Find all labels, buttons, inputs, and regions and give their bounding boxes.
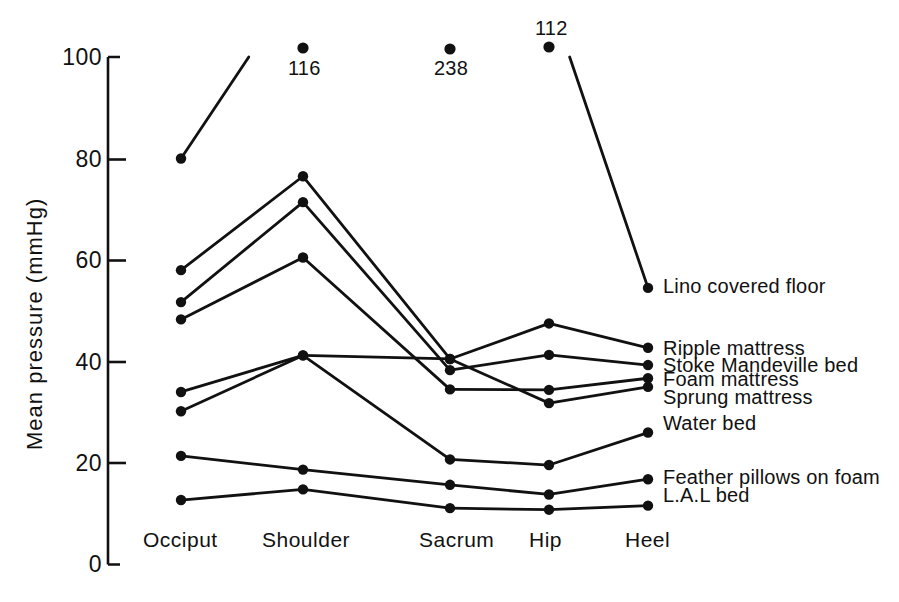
x-tick-label-heel: Heel bbox=[625, 528, 670, 552]
series-line-segment bbox=[450, 389, 549, 390]
y-axis-title: Mean pressure (mmHg) bbox=[22, 198, 48, 450]
series-line-segment bbox=[303, 176, 450, 359]
series-label-lal: L.A.L bed bbox=[663, 484, 750, 507]
series-line-segment bbox=[303, 202, 450, 370]
y-tick-label-60: 60 bbox=[42, 247, 102, 274]
offscale-label-sacrum: 238 bbox=[434, 57, 468, 80]
data-point-marker bbox=[176, 297, 186, 307]
data-point-marker bbox=[176, 451, 186, 461]
series-line-segment bbox=[303, 489, 450, 508]
series-line-segment bbox=[181, 57, 249, 159]
series-line-segment bbox=[450, 323, 549, 359]
data-point-marker bbox=[298, 171, 308, 181]
x-tick-label-sacrum: Sacrum bbox=[419, 528, 494, 552]
data-point-marker bbox=[544, 350, 554, 360]
series-line-segment bbox=[549, 479, 648, 494]
series-line-segment bbox=[181, 355, 303, 411]
series-line-segment bbox=[181, 489, 303, 500]
data-point-marker bbox=[544, 398, 554, 408]
offscale-label-shoulder: 116 bbox=[288, 57, 321, 80]
data-point-marker bbox=[643, 382, 653, 392]
series-line-segment bbox=[181, 176, 303, 270]
series-line-segment bbox=[549, 355, 648, 365]
data-point-marker bbox=[643, 283, 653, 293]
series-line-segment bbox=[450, 459, 549, 465]
data-point-marker bbox=[445, 454, 455, 464]
x-tick-label-hip: Hip bbox=[529, 528, 562, 552]
y-axis-ticks bbox=[108, 160, 126, 464]
data-point-marker bbox=[176, 265, 186, 275]
data-point-marker bbox=[176, 153, 186, 163]
chart-axes bbox=[108, 57, 126, 565]
data-point-marker bbox=[176, 495, 186, 505]
data-point-marker bbox=[544, 460, 554, 470]
data-point-marker bbox=[544, 489, 554, 499]
y-tick-label-40: 40 bbox=[42, 349, 102, 376]
data-point-marker bbox=[176, 314, 186, 324]
data-point-marker bbox=[298, 252, 308, 262]
data-point-marker bbox=[444, 43, 455, 54]
data-point-marker bbox=[544, 504, 554, 514]
y-tick-label-80: 80 bbox=[42, 146, 102, 173]
data-point-marker bbox=[298, 350, 308, 360]
data-point-marker bbox=[445, 354, 455, 364]
data-point-marker bbox=[445, 365, 455, 375]
series-line-segment bbox=[303, 355, 450, 359]
x-tick-label-occiput: Occiput bbox=[143, 528, 218, 552]
data-point-marker bbox=[643, 360, 653, 370]
series-line-segment bbox=[450, 508, 549, 510]
series-label-sprung: Sprung mattress bbox=[663, 386, 813, 409]
pressure-chart-figure: Mean pressure (mmHg) 100 80 60 40 20 0 O… bbox=[0, 0, 899, 602]
y-tick-label-20: 20 bbox=[42, 450, 102, 477]
axis-lines bbox=[108, 57, 120, 565]
data-point-marker bbox=[445, 480, 455, 490]
data-point-marker bbox=[298, 484, 308, 494]
x-tick-label-shoulder: Shoulder bbox=[262, 528, 350, 552]
chart-plot-area bbox=[0, 0, 899, 602]
data-point-marker bbox=[298, 197, 308, 207]
series-line-segment bbox=[181, 456, 303, 470]
data-point-marker bbox=[298, 464, 308, 474]
data-point-marker bbox=[544, 385, 554, 395]
data-point-marker bbox=[643, 343, 653, 353]
series-line-segment bbox=[181, 355, 303, 392]
chart-series-group bbox=[181, 57, 648, 510]
data-point-marker bbox=[643, 427, 653, 437]
series-line-segment bbox=[303, 470, 450, 485]
data-point-marker bbox=[445, 503, 455, 513]
data-point-marker bbox=[176, 387, 186, 397]
y-tick-label-0: 0 bbox=[42, 551, 102, 578]
series-label-lino: Lino covered floor bbox=[663, 275, 826, 298]
data-point-marker bbox=[543, 41, 554, 52]
series-label-water: Water bed bbox=[663, 412, 756, 435]
series-line-segment bbox=[570, 57, 648, 288]
series-line-segment bbox=[450, 359, 549, 403]
y-tick-label-100: 100 bbox=[42, 44, 102, 71]
data-point-marker bbox=[297, 42, 308, 53]
series-line-segment bbox=[450, 355, 549, 370]
offscale-label-hip: 112 bbox=[535, 17, 568, 40]
series-line-segment bbox=[549, 506, 648, 510]
series-line-segment bbox=[450, 485, 549, 495]
chart-data-markers bbox=[176, 41, 653, 514]
data-point-marker bbox=[544, 318, 554, 328]
series-line-segment bbox=[549, 323, 648, 347]
data-point-marker bbox=[643, 500, 653, 510]
data-point-marker bbox=[643, 474, 653, 484]
data-point-marker bbox=[445, 384, 455, 394]
series-line-segment bbox=[549, 433, 648, 465]
data-point-marker bbox=[176, 406, 186, 416]
